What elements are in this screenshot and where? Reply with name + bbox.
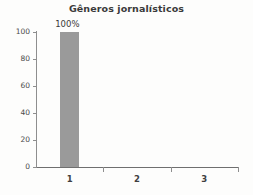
x-tick-mark [103,167,104,172]
y-tick: 40 [0,108,37,118]
y-tick: 80 [0,54,37,64]
y-tick-mark [33,140,37,141]
x-tick-label: 3 [184,174,224,184]
x-tick-mark [238,167,239,172]
y-tick-label: 20 [20,135,30,145]
x-axis-line [36,167,238,168]
bar-data-label: 100% [55,19,79,29]
x-tick-mark [171,167,172,172]
y-tick-label: 80 [20,54,30,64]
y-axis-line [36,31,37,168]
y-tick-mark [33,113,37,114]
bar-chart: Gêneros jornalísticos 020406080100 123 1… [0,0,253,195]
y-tick: 20 [0,135,37,145]
y-tick-label: 60 [20,81,30,91]
y-tick-label: 0 [25,162,30,172]
y-tick-mark [33,86,37,87]
y-tick-mark [33,167,37,168]
y-tick: 0 [0,162,37,172]
y-tick: 60 [0,81,37,91]
chart-title: Gêneros jornalísticos [0,3,253,14]
y-tick-mark [33,32,37,33]
x-tick-label: 2 [117,174,157,184]
y-tick-mark [33,59,37,60]
y-tick: 100 [0,27,37,37]
bar-category-1 [60,32,79,167]
y-tick-label: 100 [16,27,30,37]
y-tick-label: 40 [20,108,30,118]
x-tick-label: 1 [50,174,90,184]
